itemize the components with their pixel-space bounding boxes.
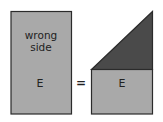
wrong-label: wrong: [25, 29, 57, 41]
right-e-label: E: [119, 77, 126, 90]
equals-sign: =: [76, 76, 86, 90]
left-rectangle: [11, 12, 72, 115]
dark-triangle: [92, 12, 153, 70]
left-e-label: E: [37, 77, 44, 90]
side-label: side: [30, 41, 52, 53]
wrong-side-diagram: wrong side E = E: [0, 0, 163, 122]
